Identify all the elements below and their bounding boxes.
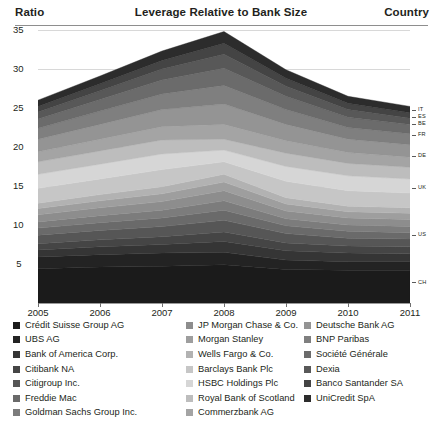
legend-item[interactable]: Citigroup Inc. <box>13 376 137 391</box>
legend-item[interactable]: Bank of America Corp. <box>13 347 137 362</box>
legend-item[interactable]: Barclays Bank Plc <box>186 362 298 377</box>
legend-column-2: JP Morgan Chase & Co.Morgan StanleyWells… <box>186 318 298 420</box>
country-tick <box>412 135 416 136</box>
chart-page: Ratio Leverage Relative to Bank Size Cou… <box>0 0 442 439</box>
country-label-fr: FR <box>418 131 426 137</box>
legend-item-label: Barclays Bank Plc <box>198 364 273 375</box>
country-tick <box>412 188 416 189</box>
country-tick <box>412 124 416 125</box>
legend-swatch-icon <box>13 322 20 329</box>
legend-item-label: Banco Santander SA <box>316 378 403 389</box>
legend-item-label: Goldman Sachs Group Inc. <box>25 407 137 418</box>
legend-item[interactable]: Citibank NA <box>13 362 137 377</box>
x-axis-tick-label: 2007 <box>140 307 184 318</box>
legend-item-label: HSBC Holdings Plc <box>198 378 278 389</box>
legend-item-label: Crédit Suisse Group AG <box>25 320 124 331</box>
legend-item-label: Société Générale <box>316 349 388 360</box>
area-band <box>38 265 410 303</box>
legend-item[interactable]: UBS AG <box>13 333 137 348</box>
legend-item-label: Commerzbank AG <box>198 407 274 418</box>
legend-item-label: Deutsche Bank AG <box>316 320 395 331</box>
country-label-uk: UK <box>418 184 426 190</box>
country-tick <box>412 117 416 118</box>
x-axis-tick-label: 2010 <box>326 307 370 318</box>
country-label-it: IT <box>418 106 423 112</box>
legend-item-label: Morgan Stanley <box>198 334 263 345</box>
legend-item-label: UBS AG <box>25 334 60 345</box>
x-axis-tick-label: 2011 <box>388 307 432 318</box>
legend-item-label: Dexia <box>316 364 340 375</box>
plot-area <box>38 30 410 303</box>
legend-item-label: Citigroup Inc. <box>25 378 80 389</box>
country-label-ch: CH <box>418 279 426 285</box>
legend-swatch-icon <box>304 322 311 329</box>
legend-swatch-icon <box>304 351 311 358</box>
chart-header: Ratio Leverage Relative to Bank Size Cou… <box>0 6 442 28</box>
x-axis-tick-label: 2009 <box>264 307 308 318</box>
y-axis-tick-label: 5 <box>8 258 30 269</box>
legend-item-label: Freddie Mac <box>25 393 77 404</box>
x-axis-tick-label: 2006 <box>78 307 122 318</box>
legend-item[interactable]: Société Générale <box>304 347 403 362</box>
legend-item-label: Wells Fargo & Co. <box>198 349 273 360</box>
legend-item[interactable]: Goldman Sachs Group Inc. <box>13 406 137 421</box>
stacked-area-series <box>38 30 410 303</box>
legend-item-label: Bank of America Corp. <box>25 349 118 360</box>
legend-swatch-icon <box>186 336 193 343</box>
legend-swatch-icon <box>13 395 20 402</box>
legend-item-label: Royal Bank of Scotland <box>198 393 295 404</box>
legend-swatch-icon <box>304 336 311 343</box>
legend-swatch-icon <box>13 351 20 358</box>
legend-item[interactable]: Crédit Suisse Group AG <box>13 318 137 333</box>
legend-item[interactable]: JP Morgan Chase & Co. <box>186 318 298 333</box>
x-axis-tick-label: 2008 <box>202 307 246 318</box>
x-axis-tick-label: 2005 <box>16 307 60 318</box>
legend-item[interactable]: Commerzbank AG <box>186 406 298 421</box>
legend-item[interactable]: Deutsche Bank AG <box>304 318 403 333</box>
legend-item-label: BNP Paribas <box>316 334 369 345</box>
legend-swatch-icon <box>186 351 193 358</box>
legend-swatch-icon <box>304 366 311 373</box>
legend-swatch-icon <box>186 322 193 329</box>
country-tick <box>412 156 416 157</box>
page-title: Leverage Relative to Bank Size <box>0 6 442 18</box>
legend-item[interactable]: Royal Bank of Scotland <box>186 391 298 406</box>
country-label-de: DE <box>418 152 426 158</box>
legend-column-1: Crédit Suisse Group AGUBS AGBank of Amer… <box>13 318 137 420</box>
legend-swatch-icon <box>13 336 20 343</box>
legend-item[interactable]: Morgan Stanley <box>186 333 298 348</box>
country-label-be: BE <box>418 120 426 126</box>
legend-item[interactable]: Freddie Mac <box>13 391 137 406</box>
legend-swatch-icon <box>304 380 311 387</box>
legend-item[interactable]: HSBC Holdings Plc <box>186 376 298 391</box>
legend-column-3: Deutsche Bank AGBNP ParibasSociété Génér… <box>304 318 403 406</box>
header-divider <box>15 25 428 26</box>
legend-swatch-icon <box>13 366 20 373</box>
legend-item[interactable]: BNP Paribas <box>304 333 403 348</box>
legend-item[interactable]: Banco Santander SA <box>304 376 403 391</box>
legend-item[interactable]: UniCredit SpA <box>304 391 403 406</box>
legend-item-label: JP Morgan Chase & Co. <box>198 320 298 331</box>
legend-swatch-icon <box>186 409 193 416</box>
chart-legend: Crédit Suisse Group AGUBS AGBank of Amer… <box>0 318 442 439</box>
legend-swatch-icon <box>186 366 193 373</box>
legend-swatch-icon <box>13 380 20 387</box>
legend-item[interactable]: Wells Fargo & Co. <box>186 347 298 362</box>
country-label-es: ES <box>418 113 426 119</box>
country-tick <box>412 110 416 111</box>
legend-swatch-icon <box>13 409 20 416</box>
country-tick <box>412 235 416 236</box>
legend-swatch-icon <box>304 395 311 402</box>
legend-swatch-icon <box>186 395 193 402</box>
legend-item-label: UniCredit SpA <box>316 393 375 404</box>
country-axis-title: Country <box>384 6 429 18</box>
legend-swatch-icon <box>186 380 193 387</box>
country-tick <box>412 282 416 283</box>
country-label-us: US <box>418 231 426 237</box>
legend-item-label: Citibank NA <box>25 364 74 375</box>
legend-item[interactable]: Dexia <box>304 362 403 377</box>
